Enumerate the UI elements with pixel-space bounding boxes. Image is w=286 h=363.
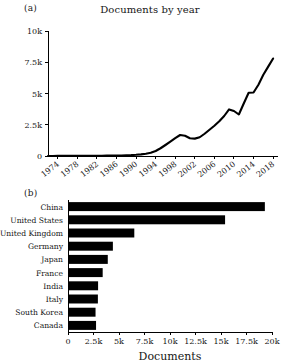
x-tick-label: 10k [162,337,177,346]
bar-india [68,281,98,290]
bar-chart-canvas: ChinaUnited StatesUnited KingdomGermanyJ… [0,186,286,363]
line-chart-axes [48,31,278,156]
panel-b-bar-chart: (b) ChinaUnited StatesUnited KingdomGerm… [0,186,286,363]
x-tick-label: 1990 [118,159,140,179]
panel-a-line-chart: (a) Documents by year 02.5k5k7.5k10k1974… [0,0,286,186]
bar-germany [68,242,113,251]
x-tick-label: 1994 [137,159,159,179]
x-tick-label: 2002 [176,159,198,179]
category-label-united-kingdom: United Kingdom [0,229,63,238]
x-tick-label: 12.5k [184,337,207,346]
bar-italy [68,295,98,304]
bar-japan [68,255,108,264]
x-tick-label: 1978 [59,159,81,179]
panel-b-label: (b) [24,188,37,198]
category-label-india: India [43,282,63,291]
y-tick-label: 5k [32,90,42,99]
category-label-japan: Japan [40,255,63,264]
category-label-canada: Canada [34,321,64,330]
y-tick-label: 2.5k [24,121,42,130]
bar-canada [68,321,96,330]
x-tick-label: 17.5k [235,337,258,346]
bar-france [68,268,103,277]
x-tick-label: 2010 [216,159,238,179]
category-label-united-states: United States [10,216,63,225]
x-tick-label: 20k [264,337,279,346]
x-tick-label: 2014 [235,159,257,179]
x-tick-label: 5k [114,337,124,346]
x-tick-label: 1974 [39,159,61,179]
y-tick-label: 0 [37,152,42,161]
bar-south-korea [68,308,96,317]
x-tick-label: 2018 [255,159,277,179]
category-label-south-korea: South Korea [15,308,63,317]
bar-united-states [68,215,225,224]
y-tick-label: 7.5k [24,58,42,67]
y-tick-label: 10k [27,27,42,36]
category-label-italy: Italy [46,295,64,304]
documents-by-year-line [48,59,273,156]
bar-united-kingdom [68,229,134,238]
bar-chart-xlabel: Documents [139,350,202,363]
x-tick-label: 2.5k [85,337,103,346]
line-chart-title: Documents by year [0,4,286,15]
figure-root: (a) Documents by year 02.5k5k7.5k10k1974… [0,0,286,363]
line-chart-canvas: 02.5k5k7.5k10k19741978198219861990199419… [0,0,286,186]
x-tick-label: 1998 [157,159,179,179]
category-label-china: China [40,203,63,212]
category-label-france: France [36,269,64,278]
x-tick-label: 1982 [79,159,101,179]
x-tick-label: 7.5k [136,337,154,346]
x-tick-label: 0 [65,337,70,346]
x-tick-label: 1986 [98,159,120,179]
bar-china [68,202,265,211]
category-label-germany: Germany [28,242,64,251]
x-tick-label: 2006 [196,159,218,179]
x-tick-label: 15k [213,337,228,346]
